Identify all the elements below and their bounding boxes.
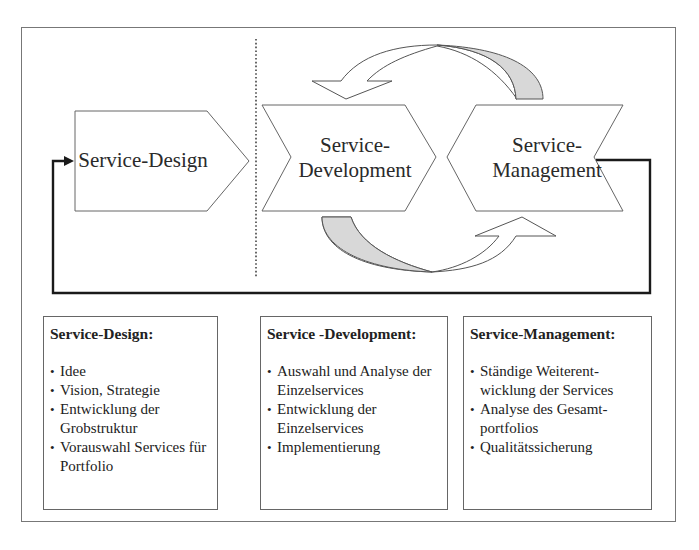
list-item: Auswahl und Analyse der Einzelservices: [267, 362, 441, 400]
label-line: Service-: [472, 133, 622, 158]
list-item: Idee: [50, 362, 211, 381]
list-item: Vision, Strategie: [50, 381, 211, 400]
list-item: Analyse des Gesamt- portfolios: [470, 400, 645, 438]
list-item: Implementierung: [267, 438, 441, 457]
service-design-box: Service-Design: Idee Vision, Strategie E…: [43, 316, 218, 510]
list-item: Qualitätssicherung: [470, 438, 645, 457]
label-line: Management: [472, 158, 622, 183]
feedback-arrowhead-icon: [64, 156, 74, 166]
cycle-arrow-bottom-icon: [322, 217, 556, 272]
label-line: Development: [280, 158, 430, 183]
list-item: Entwicklung der Einzelservices: [267, 400, 441, 438]
box-title: Service -Development:: [267, 324, 441, 343]
service-management-box: Service-Management: Ständige Weiterent- …: [463, 316, 652, 510]
label-line: Service-: [280, 133, 430, 158]
service-management-label: Service- Management: [472, 133, 622, 183]
service-development-label: Service- Development: [280, 133, 430, 183]
service-development-box: Service -Development: Auswahl und Analys…: [260, 316, 448, 510]
service-design-label: Service-Design: [78, 148, 208, 173]
list-item: Vorauswahl Services für Portfolio: [50, 438, 211, 476]
label-line: Service-Design: [78, 148, 208, 173]
box-title: Service-Management:: [470, 324, 645, 343]
box-list: Auswahl und Analyse der Einzelservices E…: [267, 362, 441, 457]
list-item: Entwicklung der Grobstruktur: [50, 400, 211, 438]
box-list: Idee Vision, Strategie Entwicklung der G…: [50, 362, 211, 476]
cycle-arrow-top-icon: [312, 45, 543, 99]
box-title: Service-Design:: [50, 324, 211, 343]
list-item: Ständige Weiterent- wicklung der Service…: [470, 362, 645, 400]
box-list: Ständige Weiterent- wicklung der Service…: [470, 362, 645, 457]
